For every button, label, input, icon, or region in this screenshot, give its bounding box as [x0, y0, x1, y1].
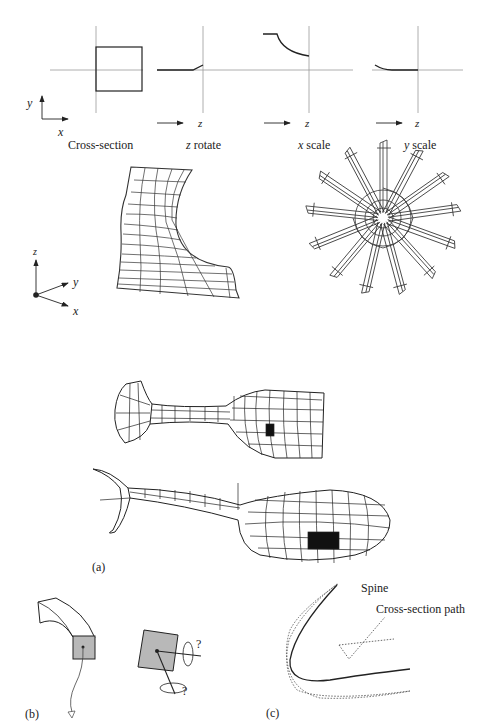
goblet-wireframe-2	[93, 469, 390, 563]
question-mark-2: ?	[182, 684, 187, 699]
panel-label-c: (c)	[266, 706, 279, 721]
swept-surface-wireframe	[117, 167, 239, 298]
caption-x-scale: x scale	[298, 138, 330, 153]
cross-section-rotation-figure	[138, 630, 201, 694]
y-scale-graph	[372, 26, 463, 123]
axis-label-z-xscale: z	[305, 117, 309, 129]
axis-label-y: y	[27, 96, 32, 111]
xy-axes-icon	[42, 96, 68, 119]
cross-section-graph	[50, 26, 143, 113]
goblet-wireframe-1	[115, 381, 324, 458]
panel-label-b: (b)	[25, 707, 39, 722]
caption-y-scale: y scale	[404, 138, 436, 153]
axis-label-z-rotate: z	[198, 117, 202, 129]
axis-label-z-yscale: z	[415, 117, 419, 129]
cross-section-path-triangle	[339, 617, 394, 659]
swept-block-figure	[38, 598, 95, 718]
radial-sweep-wireframe	[305, 140, 462, 295]
x-scale-graph	[240, 26, 353, 123]
axis3d-label-z: z	[33, 246, 37, 257]
xyz-axes-icon	[33, 260, 68, 306]
axis-label-x: x	[58, 125, 63, 140]
panel-label-a: (a)	[92, 560, 105, 575]
axis3d-label-x: x	[73, 304, 78, 319]
axis3d-label-y: y	[73, 275, 78, 290]
caption-cross-section: Cross-section	[68, 138, 133, 153]
z-rotate-graph	[157, 26, 240, 123]
spine-label: Spine	[361, 581, 388, 596]
cross-section-path-label: Cross-section path	[376, 602, 465, 617]
question-mark-1: ?	[196, 637, 201, 652]
caption-z-rotate: z rotate	[186, 138, 221, 153]
